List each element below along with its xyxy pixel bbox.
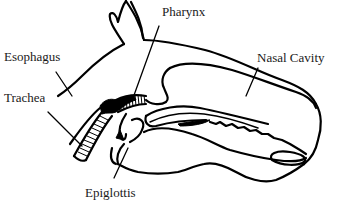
leader-trachea [48,112,82,146]
label-nasal-cavity: Nasal Cavity [257,51,325,64]
label-epiglottis: Epiglottis [85,186,136,199]
leader-lines [48,26,258,178]
nasal-turbinate-drawing [144,68,306,165]
pharynx-drawing [100,95,146,114]
ear-drawing [110,1,144,44]
label-pharynx: Pharynx [162,5,205,18]
leader-nasal-cavity [246,68,258,96]
epiglottis-drawing [111,114,143,164]
trachea-drawing [74,112,112,161]
dog-head-section-drawing [0,0,339,208]
leader-pharynx [133,26,159,98]
label-trachea: Trachea [4,91,45,104]
label-esophagus: Esophagus [4,50,60,63]
